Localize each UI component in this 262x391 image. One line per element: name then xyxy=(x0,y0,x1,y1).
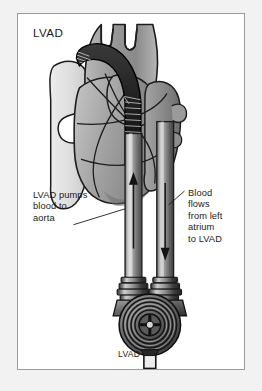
aortic-branch-notch-2 xyxy=(125,24,137,49)
drive-line-boot xyxy=(141,350,159,356)
pump-center xyxy=(146,321,153,328)
annotation-bottom-lvad: LVAD xyxy=(118,349,140,360)
page-title: LVAD xyxy=(33,27,63,38)
figure-panel: LVAD LVAD pumps blood to aorta Blood flo… xyxy=(17,13,245,370)
annotation-right: Blood flows from left atrium to LVAD xyxy=(188,188,245,245)
vessel-stub-upper xyxy=(172,104,187,122)
lvad-figure: LVAD LVAD pumps blood to aorta Blood flo… xyxy=(0,0,262,391)
outflow-cannula-highlight xyxy=(129,134,132,279)
annotation-left: LVAD pumps blood to aorta xyxy=(33,190,119,224)
